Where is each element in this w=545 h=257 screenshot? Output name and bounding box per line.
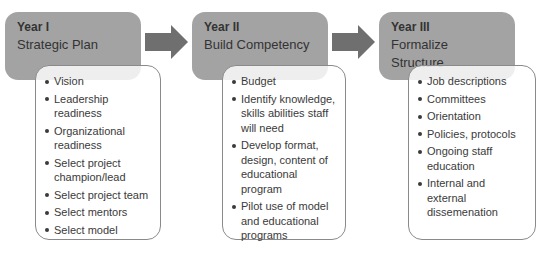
bullet-icon: [418, 182, 422, 186]
bullet-icon: [232, 97, 236, 101]
list-item: Policies, protocols: [418, 127, 527, 142]
year-3-label: Year III: [391, 19, 503, 35]
three-year-plan-diagram: Year I Strategic Plan VisionLeadership r…: [0, 0, 545, 257]
list-item-text: Select project champion/lead: [54, 157, 126, 184]
list-item: Job descriptions: [418, 74, 527, 89]
list-item-text: Committees: [427, 93, 486, 105]
list-item-text: Budget: [241, 75, 276, 87]
bullet-icon: [232, 80, 236, 84]
year-3-list-box: Job descriptionsCommitteesOrientationPol…: [408, 65, 536, 240]
bullet-icon: [418, 150, 422, 154]
list-item: Vision: [45, 74, 152, 89]
bullet-icon: [45, 211, 49, 215]
list-item-text: Orientation: [427, 110, 481, 122]
bullet-icon: [45, 193, 49, 197]
right-arrow-icon: [145, 25, 189, 59]
list-item: Identify knowledge, skills abilities sta…: [232, 92, 337, 136]
year-2-list: BudgetIdentify knowledge, skills abiliti…: [232, 74, 337, 243]
list-item-text: Organizational readiness: [54, 125, 125, 152]
year-2-title: Build Competency: [204, 36, 316, 54]
year-1-list-box: VisionLeadership readinessOrganizational…: [35, 65, 161, 240]
bullet-icon: [45, 80, 49, 84]
list-item-text: Job descriptions: [427, 75, 507, 87]
list-item: Select mentors: [45, 205, 152, 220]
list-item: Leadership readiness: [45, 92, 152, 121]
list-item: Select project champion/lead: [45, 156, 152, 185]
list-item-text: Select project team: [54, 189, 148, 201]
right-arrow-icon: [332, 25, 376, 59]
list-item-text: Leadership readiness: [54, 93, 108, 120]
year-1-label: Year I: [17, 19, 129, 35]
year-3-list: Job descriptionsCommitteesOrientationPol…: [418, 74, 527, 220]
list-item-text: Vision: [54, 75, 84, 87]
list-item: Organizational readiness: [45, 124, 152, 153]
list-item-text: Ongoing staff education: [427, 145, 492, 172]
bullet-icon: [418, 115, 422, 119]
bullet-icon: [45, 228, 49, 232]
bullet-icon: [418, 97, 422, 101]
year-1-list: VisionLeadership readinessOrganizational…: [45, 74, 152, 237]
arrow-1-shape: [145, 25, 188, 59]
list-item-text: Internal and external dissemenation: [427, 177, 498, 218]
bullet-icon: [232, 205, 236, 209]
list-item: Orientation: [418, 109, 527, 124]
bullet-icon: [45, 97, 49, 101]
list-item: Ongoing staff education: [418, 144, 527, 173]
list-item-text: Develop format, design, content of educa…: [241, 139, 328, 195]
year-2-list-box: BudgetIdentify knowledge, skills abiliti…: [222, 65, 346, 240]
bullet-icon: [45, 161, 49, 165]
year-2-label: Year II: [204, 19, 316, 35]
year-1-title: Strategic Plan: [17, 36, 129, 54]
arrow-2-shape: [332, 25, 375, 59]
bullet-icon: [418, 132, 422, 136]
bullet-icon: [45, 129, 49, 133]
list-item: Select project team: [45, 188, 152, 203]
bullet-icon: [418, 80, 422, 84]
list-item-text: Identify knowledge, skills abilities sta…: [241, 93, 335, 134]
list-item-text: Pilot use of model and educational progr…: [241, 200, 328, 241]
list-item: Pilot use of model and educational progr…: [232, 199, 337, 243]
list-item: Develop format, design, content of educa…: [232, 138, 337, 196]
list-item: Internal and external dissemenation: [418, 176, 527, 220]
list-item: Select model: [45, 223, 152, 238]
bullet-icon: [232, 144, 236, 148]
list-item-text: Select mentors: [54, 206, 127, 218]
list-item: Budget: [232, 74, 337, 89]
list-item-text: Select model: [54, 224, 118, 236]
list-item: Committees: [418, 92, 527, 107]
list-item-text: Policies, protocols: [427, 128, 516, 140]
